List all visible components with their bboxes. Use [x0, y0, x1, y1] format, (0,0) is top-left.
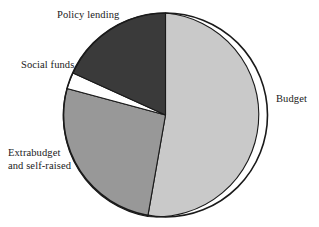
pie-label-social-funds: Social funds [21, 59, 74, 71]
pie-label-extrabudget-line1: Extrabudget [8, 147, 71, 160]
pie-chart-canvas [0, 0, 319, 227]
pie-label-extrabudget-and-self-raised: Extrabudget and self-raised [8, 147, 71, 172]
pie-label-policy-lending: Policy lending [57, 9, 119, 21]
pie-label-extrabudget-line2: and self-raised [8, 160, 71, 173]
pie-chart-figure: Policy lending Social funds Extrabudget … [0, 0, 319, 227]
pie-label-budget: Budget [276, 93, 307, 105]
